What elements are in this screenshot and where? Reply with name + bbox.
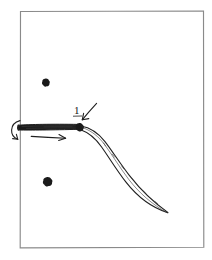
callout-arrow xyxy=(82,103,96,119)
ink-dot-lower xyxy=(43,177,53,187)
ink-dot-upper xyxy=(42,79,50,87)
sketch-svg: 1 xyxy=(0,0,212,260)
figure-canvas: 1 xyxy=(0,0,212,260)
horizontal-bar xyxy=(18,124,79,130)
curved-tail xyxy=(81,126,168,213)
label-1-text: 1 xyxy=(74,104,80,116)
label-1: 1 xyxy=(73,104,81,116)
translation-arrow xyxy=(31,135,65,141)
